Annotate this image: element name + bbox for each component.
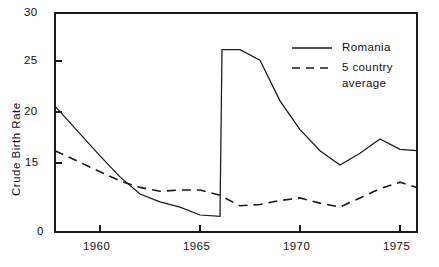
- y-tick-label-20: 20: [24, 105, 38, 117]
- legend-label-average-line1: 5 country: [342, 61, 393, 73]
- legend-label-average-line2: average: [342, 77, 386, 89]
- x-axis-ticks: [100, 225, 400, 232]
- y-tick-label-15: 15: [25, 156, 39, 168]
- y-tick-label-30: 30: [24, 6, 38, 18]
- legend-label-romania: Romania: [342, 41, 391, 53]
- y-axis-label: Crude Birth Rate: [10, 102, 22, 196]
- legend-samples: [292, 48, 332, 68]
- series-five-country-average: [55, 151, 417, 207]
- x-tick-label-1965: 1965: [183, 240, 210, 252]
- chart-figure: 30 25 20 15 0 Crude Birth Rate 1960 1965…: [0, 0, 439, 267]
- x-tick-label-1970: 1970: [283, 240, 310, 252]
- x-tick-label-1960: 1960: [83, 240, 110, 252]
- y-tick-label-0: 0: [37, 225, 44, 237]
- x-tick-label-1975: 1975: [383, 240, 410, 252]
- y-tick-label-25: 25: [24, 54, 38, 66]
- series-romania: [55, 50, 417, 217]
